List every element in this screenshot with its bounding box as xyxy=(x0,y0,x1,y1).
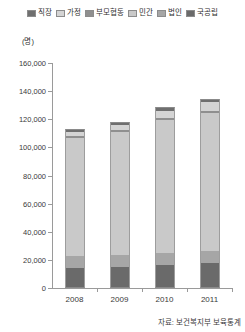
y-axis-tick xyxy=(48,63,52,64)
legend-item-label: 법인 xyxy=(168,9,182,17)
bar-segment-부모협동 xyxy=(65,136,85,138)
legend-item-label: 국공립 xyxy=(197,9,218,17)
bar-segment-법인 xyxy=(110,255,130,267)
stacked-bar xyxy=(200,99,220,288)
bar-segment-부모협동 xyxy=(110,130,130,132)
legend-swatch-icon xyxy=(85,10,94,17)
y-axis-tick xyxy=(48,91,52,92)
bar-segment-법인 xyxy=(65,256,85,268)
stacked-bar xyxy=(155,107,175,288)
legend-item-label: 민간 xyxy=(139,9,153,17)
bar-segment-민간 xyxy=(110,132,130,255)
bar-segment-민간 xyxy=(155,120,175,253)
legend-swatch-icon xyxy=(186,10,195,17)
bar-segment-가정 xyxy=(155,111,175,118)
plot-area: 160,000140,000120,000100,00080,00060,000… xyxy=(52,63,232,288)
bar-segment-법인 xyxy=(200,251,220,263)
legend-item: 국공립 xyxy=(186,9,218,17)
bar-segment-가정 xyxy=(110,125,130,130)
stacked-bar xyxy=(65,129,85,288)
legend-swatch-icon xyxy=(56,10,65,17)
bar-segment-가정 xyxy=(200,102,220,110)
legend-item: 직장 xyxy=(27,9,52,17)
y-axis-tick-label: 40,000 xyxy=(23,227,46,236)
y-axis-tick-label: 0 xyxy=(42,284,46,293)
bar-segment-가정 xyxy=(65,132,85,136)
source-note: 자료: 보건복지부 보육통계 xyxy=(158,316,241,327)
bar-segment-국공립 xyxy=(155,265,175,288)
legend-item: 법인 xyxy=(157,9,182,17)
chart-figure: 직장가정부모협동민간법인국공립 (명) 160,000140,000120,00… xyxy=(0,0,245,332)
bar-segment-직장 xyxy=(200,99,220,103)
legend-item: 가정 xyxy=(56,9,81,17)
bar-segment-직장 xyxy=(65,129,85,132)
bar-segment-국공립 xyxy=(65,268,85,288)
y-axis-tick xyxy=(48,176,52,177)
x-axis-tick xyxy=(187,288,188,292)
y-axis-tick xyxy=(48,288,52,289)
x-axis-tick-label: 2008 xyxy=(66,295,84,304)
stacked-bar xyxy=(110,122,130,288)
bar-segment-국공립 xyxy=(110,267,130,288)
x-axis-tick xyxy=(232,288,233,292)
y-axis-tick xyxy=(48,260,52,261)
chart-legend: 직장가정부모협동민간법인국공립 xyxy=(0,9,245,17)
bar-segment-법인 xyxy=(155,253,175,265)
y-axis-tick xyxy=(48,232,52,233)
y-axis-tick-label: 140,000 xyxy=(19,87,46,96)
x-axis-tick-label: 2010 xyxy=(156,295,174,304)
x-axis-tick xyxy=(97,288,98,292)
y-axis-unit-label: (명) xyxy=(22,35,34,46)
legend-swatch-icon xyxy=(128,10,137,17)
y-axis-tick-label: 160,000 xyxy=(19,59,46,68)
y-axis-line xyxy=(52,63,53,288)
y-axis-tick xyxy=(48,147,52,148)
legend-swatch-icon xyxy=(27,10,36,17)
legend-item-label: 부모협동 xyxy=(96,9,124,17)
y-axis-tick-label: 20,000 xyxy=(23,255,46,264)
x-axis-tick-label: 2009 xyxy=(111,295,129,304)
bar-segment-부모협동 xyxy=(155,118,175,120)
x-axis-tick xyxy=(142,288,143,292)
legend-item-label: 가정 xyxy=(67,9,81,17)
legend-item: 민간 xyxy=(128,9,153,17)
x-axis-tick-label: 2011 xyxy=(201,295,218,304)
legend-swatch-icon xyxy=(157,10,166,17)
y-axis-tick-label: 80,000 xyxy=(23,171,46,180)
y-axis-tick-label: 100,000 xyxy=(19,143,46,152)
bar-segment-민간 xyxy=(65,138,85,256)
y-axis-tick xyxy=(48,119,52,120)
legend-item: 부모협동 xyxy=(85,9,124,17)
bar-segment-부모협동 xyxy=(200,111,220,113)
y-axis-tick xyxy=(48,204,52,205)
bar-segment-직장 xyxy=(155,107,175,111)
bar-segment-직장 xyxy=(110,122,130,125)
bar-segment-국공립 xyxy=(200,263,220,288)
y-axis-tick-label: 60,000 xyxy=(23,199,46,208)
bar-segment-민간 xyxy=(200,113,220,252)
y-axis-tick-label: 120,000 xyxy=(19,115,46,124)
legend-item-label: 직장 xyxy=(38,9,52,17)
